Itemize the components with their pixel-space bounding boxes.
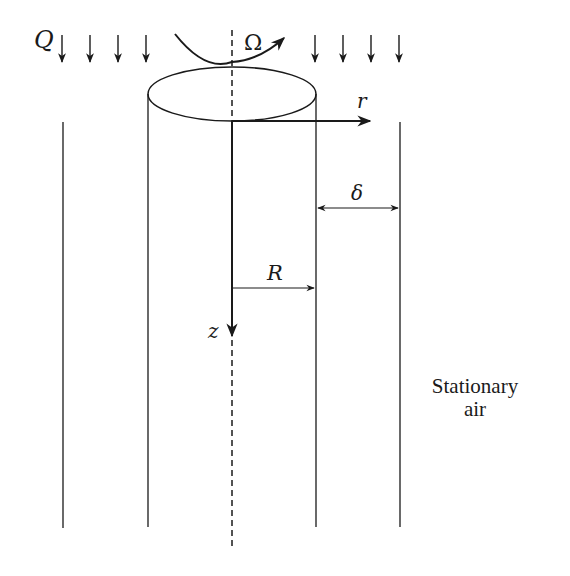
radial-axis-label: r bbox=[357, 89, 368, 113]
stationary-air-label-line1: Stationary bbox=[432, 374, 519, 398]
stationary-air-label-line2: air bbox=[464, 397, 486, 421]
flow-rate-label: Q bbox=[34, 26, 54, 54]
radius-label: R bbox=[266, 261, 283, 285]
gap-width-label: δ bbox=[351, 181, 363, 205]
incoming-flow-arrows-right bbox=[315, 35, 399, 62]
incoming-flow-arrows-left bbox=[62, 35, 146, 62]
rotating-cylinder-film-diagram: Q Ω r δ R z Stationary air bbox=[0, 0, 570, 576]
angular-velocity-label: Ω bbox=[244, 30, 262, 55]
rotation-arrow-icon bbox=[175, 34, 284, 64]
axial-axis-label: z bbox=[207, 319, 219, 343]
